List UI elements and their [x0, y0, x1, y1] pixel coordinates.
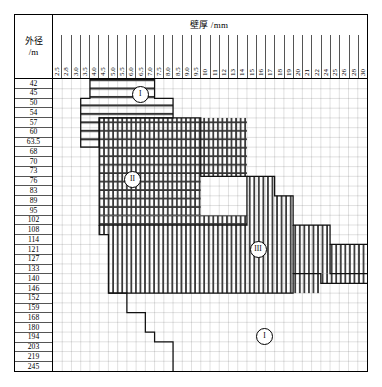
row-header-cell: 159 — [15, 304, 52, 314]
column-header-cell: 15 — [248, 35, 257, 78]
column-header-label: 2.5 — [54, 67, 61, 76]
column-header-cell: 7.0 — [146, 35, 155, 78]
column-header-label: 28 — [350, 69, 357, 76]
row-header-cell: 89 — [15, 196, 52, 206]
column-header-cell: 3.5 — [81, 35, 90, 78]
corner-label-line1: 外径 — [25, 36, 43, 46]
column-header-label: 5.5 — [118, 67, 125, 76]
row-header-cell: 70 — [15, 157, 52, 167]
row-header-cell: 121 — [15, 245, 52, 255]
column-header-cell: 12 — [220, 35, 229, 78]
row-header-cell: 63.5 — [15, 138, 52, 148]
column-header-cell: 28 — [350, 35, 359, 78]
column-header-label: 18 — [276, 69, 283, 76]
column-header-cell: 30 — [359, 35, 367, 78]
column-header-label: 9.5 — [193, 67, 200, 76]
column-header-label: 3.0 — [72, 67, 79, 76]
selection-chart: 壁厚 /mm 外径 /m 2.52.83.03.54.04.55.05.56.0… — [0, 0, 382, 387]
column-header-cell: 7.5 — [155, 35, 164, 78]
column-header-cell: 25 — [331, 35, 340, 78]
chart-title-row: 壁厚 /mm — [15, 15, 367, 35]
column-header-label: 13 — [230, 69, 237, 76]
column-header-label: 7.5 — [156, 67, 163, 76]
column-header-cell: 6.5 — [136, 35, 145, 78]
row-header-cell: 114 — [15, 235, 52, 245]
region-fill — [321, 274, 367, 284]
column-header-cell: 2.8 — [62, 35, 71, 78]
column-header-cell: 2.5 — [53, 35, 62, 78]
row-header-cell: 133 — [15, 265, 52, 275]
column-header-label: 8.0 — [165, 67, 172, 76]
column-header-cell: 14 — [238, 35, 247, 78]
column-header-label: 19 — [285, 69, 292, 76]
row-header-cell: 219 — [15, 352, 52, 362]
row-header-cell: 42 — [15, 79, 52, 89]
column-header-label: 17 — [267, 69, 274, 76]
row-header-cell: 50 — [15, 99, 52, 109]
column-header-cell: 16 — [257, 35, 266, 78]
column-header-cell: 22 — [312, 35, 321, 78]
column-header-label: 26 — [341, 69, 348, 76]
column-header-label: 24 — [322, 69, 329, 76]
column-header-label: 6.0 — [128, 67, 135, 76]
column-header-cell: 5.0 — [109, 35, 118, 78]
column-header-label: 15 — [248, 69, 255, 76]
row-header-cell: 245 — [15, 362, 52, 371]
row-header-cell: 57 — [15, 118, 52, 128]
column-header-cell: 6.0 — [127, 35, 136, 78]
column-header-label: 21 — [304, 69, 311, 76]
row-header-cell: 203 — [15, 343, 52, 353]
row-header-cell: 146 — [15, 284, 52, 294]
column-header-label: 30 — [359, 69, 366, 76]
row-header-cell: 45 — [15, 89, 52, 99]
row-header-cell: 108 — [15, 225, 52, 235]
region-fill — [247, 176, 275, 225]
column-header-label: 10 — [202, 69, 209, 76]
column-header-label: 16 — [257, 69, 264, 76]
region-label-badge: III — [250, 241, 267, 258]
row-header-cell: 60 — [15, 128, 52, 138]
column-header-cell: 19 — [285, 35, 294, 78]
column-header-label: 9.0 — [183, 67, 190, 76]
column-header-label: 11 — [211, 69, 218, 76]
axis-corner-label: 外径 /m — [15, 15, 53, 79]
column-header-label: 7.0 — [146, 67, 153, 76]
column-header-label: 20 — [295, 69, 302, 76]
column-header-cell: 20 — [294, 35, 303, 78]
row-header-cell: 140 — [15, 274, 52, 284]
row-header-cell: 54 — [15, 108, 52, 118]
row-header-axis: 42455054576063.5687073768389951021081141… — [15, 79, 53, 371]
column-header-cell: 24 — [322, 35, 331, 78]
column-header-cell: 4.0 — [90, 35, 99, 78]
region-label-badge: I — [132, 86, 149, 103]
column-header-cell: 17 — [266, 35, 275, 78]
row-header-cell: 68 — [15, 147, 52, 157]
column-header-label: 5.0 — [109, 67, 116, 76]
row-header-cell: 194 — [15, 333, 52, 343]
column-header-cell: 3.0 — [72, 35, 81, 78]
column-header-label: 12 — [220, 69, 227, 76]
row-header-cell: 127 — [15, 255, 52, 265]
column-header-cell: 9.0 — [183, 35, 192, 78]
region-fill — [99, 225, 108, 235]
column-header-cell: 13 — [229, 35, 238, 78]
region-label-badge: II — [124, 171, 141, 188]
column-header-label: 22 — [313, 69, 320, 76]
column-header-cell: 8.0 — [164, 35, 173, 78]
plot-svg — [53, 79, 367, 371]
column-header-label: 25 — [332, 69, 339, 76]
column-header-cell: 5.5 — [118, 35, 127, 78]
column-header-label: 2.8 — [63, 67, 70, 76]
column-header-axis: 2.52.83.03.54.04.55.05.56.06.57.07.58.08… — [53, 35, 367, 79]
row-header-cell: 152 — [15, 294, 52, 304]
row-header-cell: 73 — [15, 167, 52, 177]
row-header-cell: 95 — [15, 206, 52, 216]
column-header-label: 8.5 — [174, 67, 181, 76]
row-header-cell: 168 — [15, 313, 52, 323]
row-header-cell: 83 — [15, 186, 52, 196]
column-header-label: 3.5 — [81, 67, 88, 76]
column-header-cell: 4.5 — [99, 35, 108, 78]
column-header-cell: 10 — [201, 35, 210, 78]
page-title: 壁厚 /mm — [15, 18, 367, 31]
row-header-cell: 76 — [15, 177, 52, 187]
